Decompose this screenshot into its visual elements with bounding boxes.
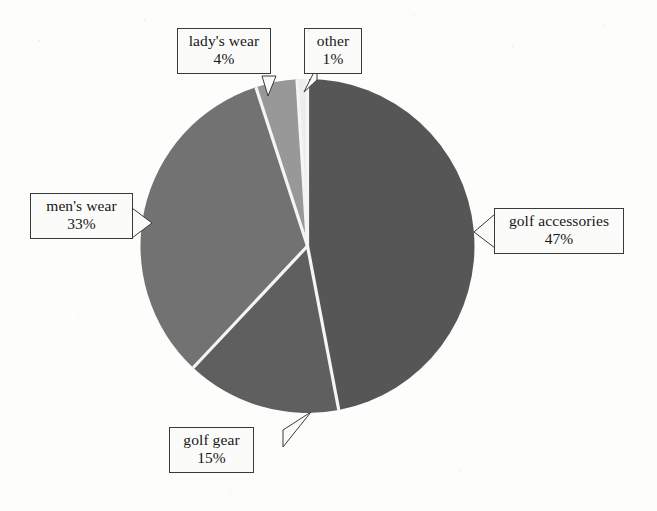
pie-label-golf-gear-name: golf gear — [177, 431, 246, 449]
pie-label-other[interactable]: other 1% — [304, 28, 362, 74]
pie-label-golf-accessories[interactable]: golf accessories 47% — [494, 208, 624, 254]
pie-label-golf-accessories-name: golf accessories — [502, 212, 616, 230]
pie-label-ladys-wear-percent: 4% — [185, 50, 263, 68]
pie-label-other-percent: 1% — [312, 50, 354, 68]
pie-chart — [0, 0, 657, 511]
pie-label-ladys-wear[interactable]: lady's wear 4% — [177, 28, 271, 74]
pie-slice-golf-accessories — [308, 79, 475, 410]
pie-label-golf-accessories-percent: 47% — [502, 230, 616, 248]
pie-label-mens-wear[interactable]: men's wear 33% — [30, 193, 133, 239]
pie-label-golf-gear-percent: 15% — [177, 449, 246, 467]
pie-chart-page: lady's wear 4% other 1% men's wear 33% g… — [0, 0, 657, 511]
pie-label-other-name: other — [312, 32, 354, 50]
pie-label-golf-gear[interactable]: golf gear 15% — [169, 427, 254, 473]
pie-label-mens-wear-name: men's wear — [38, 197, 125, 215]
pie-label-mens-wear-percent: 33% — [38, 215, 125, 233]
pie-label-ladys-wear-name: lady's wear — [185, 32, 263, 50]
